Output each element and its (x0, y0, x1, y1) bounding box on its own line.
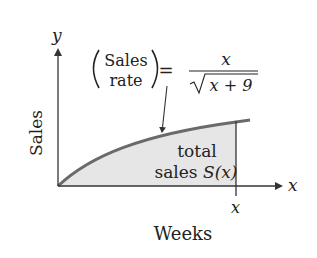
y-axis-label: Sales (26, 110, 46, 156)
sales-rate-formula: Sales rate = x x + 9 (94, 49, 259, 95)
sales-area-diagram: y x x Sales Weeks Sales rate = x x + 9 t… (0, 0, 317, 258)
x-axis-label: Weeks (154, 223, 212, 244)
region-label-line2: sales S(x) (154, 162, 237, 182)
formula-lhs-bottom: rate (109, 71, 142, 90)
x-axis-symbol: x (288, 175, 298, 195)
region-label-line1: total (177, 141, 216, 161)
right-paren (152, 50, 158, 88)
formula-numerator: x (221, 49, 231, 69)
x-tick-label: x (231, 198, 240, 217)
left-paren (94, 50, 100, 88)
formula-denominator: x + 9 (210, 76, 253, 95)
region-label-prefix: sales (154, 162, 203, 182)
region-label-func: S (203, 162, 215, 182)
formula-lhs-top: Sales (104, 51, 147, 70)
y-axis-symbol: y (51, 25, 62, 45)
pointer-arrow (162, 86, 167, 132)
formula-equals: = (158, 60, 173, 81)
region-label-arg: (x) (215, 162, 238, 182)
